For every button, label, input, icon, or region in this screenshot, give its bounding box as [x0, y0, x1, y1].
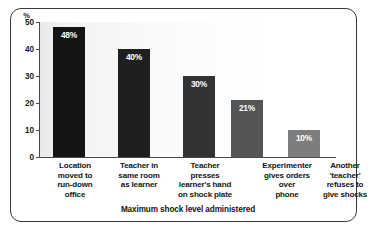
category-label-4: Another 'teacher' refuses to give shocks — [305, 161, 371, 199]
bar-value-label: 48% — [53, 30, 85, 40]
y-tick-mark-10 — [36, 130, 40, 131]
bar-teacher-in-same-room-as-learner[interactable]: 40% — [118, 49, 150, 157]
y-axis-labels: % 50 40 30 20 10 0 — [0, 0, 34, 237]
category-line: give shocks — [305, 190, 371, 200]
y-tick-40: 40 — [4, 45, 34, 54]
bar-value-label: 21% — [231, 103, 263, 113]
category-line: office — [36, 190, 114, 200]
y-tick-mark-20 — [36, 103, 40, 104]
y-axis-line — [39, 22, 40, 158]
y-tick-mark-0 — [36, 157, 40, 158]
y-tick-mark-30 — [36, 76, 40, 77]
category-line: Teacher — [162, 161, 248, 171]
y-tick-30: 30 — [4, 72, 34, 81]
category-line: learner's hand — [162, 180, 248, 190]
bar-value-label: 30% — [183, 79, 215, 89]
y-tick-mark-50 — [36, 22, 40, 23]
bar-teacher-presses-learners-hand-on-shock-plate[interactable]: 30% — [183, 76, 215, 157]
bar-value-label: 10% — [288, 133, 320, 143]
category-line: presses — [162, 171, 248, 181]
bar-chart-figure: % 50 40 30 20 10 0 48% 40% 30% 21% 10% L… — [0, 0, 371, 237]
y-tick-50: 50 — [4, 18, 34, 27]
category-line: refuses to — [305, 180, 371, 190]
x-axis-category-labels: Location moved to run-down office Teache… — [40, 161, 336, 209]
y-tick-0: 0 — [4, 153, 34, 162]
y-tick-10: 10 — [4, 126, 34, 135]
category-label-2: Teacher presses learner's hand on shock … — [162, 161, 248, 199]
bar-experimenter-gives-orders-over-phone[interactable]: 21% — [231, 100, 263, 157]
x-axis-line — [39, 157, 336, 158]
y-tick-mark-40 — [36, 49, 40, 50]
x-axis-title: Maximum shock level administered — [40, 205, 336, 214]
y-tick-20: 20 — [4, 99, 34, 108]
bar-another-teacher-refuses-to-give-shocks[interactable]: 10% — [288, 130, 320, 157]
bar-value-label: 40% — [118, 52, 150, 62]
category-line: 'teacher' — [305, 171, 371, 181]
bar-location-moved-to-run-down-office[interactable]: 48% — [53, 27, 85, 157]
category-line: Another — [305, 161, 371, 171]
category-line: on shock plate — [162, 190, 248, 200]
